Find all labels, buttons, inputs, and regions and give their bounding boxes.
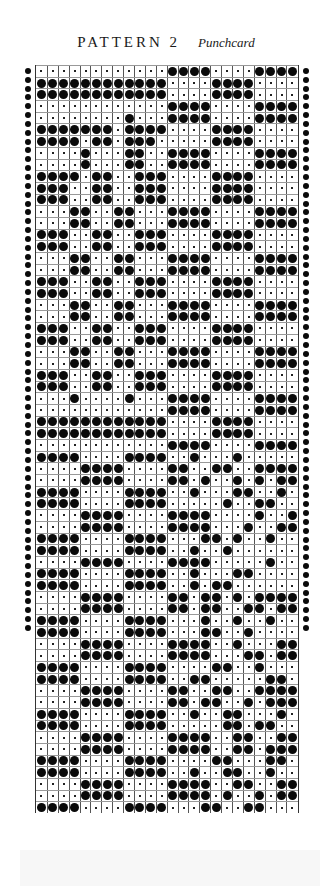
unpunched-cell <box>178 662 189 673</box>
punched-hole <box>36 195 47 206</box>
punched-hole <box>286 347 297 358</box>
unpunched-cell <box>276 615 287 626</box>
unpunched-cell <box>232 510 243 521</box>
unpunched-cell <box>188 721 199 732</box>
punched-hole <box>80 265 91 276</box>
unpunched-cell <box>80 288 91 299</box>
punchcard-row <box>36 369 298 381</box>
punched-hole <box>265 721 276 732</box>
unpunched-cell <box>112 136 123 147</box>
unpunched-cell <box>101 569 112 580</box>
unpunched-cell <box>243 265 254 276</box>
punched-hole <box>199 206 210 217</box>
sprocket-hole-icon <box>25 563 31 569</box>
unpunched-cell <box>69 113 80 124</box>
sprocket-hole-icon <box>303 156 309 162</box>
unpunched-cell <box>134 639 145 650</box>
punched-hole <box>254 791 265 802</box>
unpunched-cell <box>36 475 47 486</box>
punched-hole <box>80 347 91 358</box>
unpunched-cell <box>254 709 265 720</box>
unpunched-cell <box>276 428 287 439</box>
unpunched-cell <box>254 639 265 650</box>
punchcard-row <box>36 568 298 580</box>
unpunched-cell <box>265 382 276 393</box>
unpunched-cell <box>58 265 69 276</box>
punched-hole <box>276 265 287 276</box>
unpunched-cell <box>112 767 123 778</box>
punched-hole <box>101 183 112 194</box>
punched-hole <box>90 475 101 486</box>
unpunched-cell <box>199 452 210 463</box>
unpunched-cell <box>232 148 243 159</box>
unpunched-cell <box>156 265 167 276</box>
punched-hole <box>232 195 243 206</box>
punched-hole <box>145 288 156 299</box>
punched-hole <box>101 417 112 428</box>
punched-hole <box>90 124 101 135</box>
punched-hole <box>101 89 112 100</box>
punched-hole <box>156 534 167 545</box>
punched-hole <box>101 276 112 287</box>
sprocket-hole-icon <box>303 236 309 242</box>
punched-hole <box>134 323 145 334</box>
unpunched-cell <box>145 440 156 451</box>
unpunched-cell <box>80 674 91 685</box>
punchcard-row <box>36 556 298 568</box>
unpunched-cell <box>90 674 101 685</box>
punched-hole <box>134 183 145 194</box>
unpunched-cell <box>188 335 199 346</box>
unpunched-cell <box>276 323 287 334</box>
sprocket-hole-icon <box>303 342 309 348</box>
unpunched-cell <box>156 732 167 743</box>
punched-hole <box>145 452 156 463</box>
punched-hole <box>232 428 243 439</box>
punched-hole <box>101 195 112 206</box>
unpunched-cell <box>156 779 167 790</box>
unpunched-cell <box>254 241 265 252</box>
unpunched-cell <box>178 452 189 463</box>
unpunched-cell <box>188 323 199 334</box>
punched-hole <box>123 113 134 124</box>
sprocket-hole-icon <box>303 262 309 268</box>
punched-hole <box>123 721 134 732</box>
sprocket-hole-icon <box>303 77 309 83</box>
unpunched-cell <box>199 230 210 241</box>
punched-hole <box>286 218 297 229</box>
unpunched-cell <box>276 230 287 241</box>
unpunched-cell <box>36 791 47 802</box>
punchcard-row <box>36 427 298 439</box>
punched-hole <box>69 417 80 428</box>
punched-hole <box>90 685 101 696</box>
unpunched-cell <box>286 195 297 206</box>
punched-hole <box>167 732 178 743</box>
unpunched-cell <box>232 218 243 229</box>
punched-hole <box>123 358 134 369</box>
unpunched-cell <box>276 721 287 732</box>
punchcard-row <box>36 217 298 229</box>
punched-hole <box>276 732 287 743</box>
punched-hole <box>145 627 156 638</box>
unpunched-cell <box>254 756 265 767</box>
punched-hole <box>178 405 189 416</box>
unpunched-cell <box>112 323 123 334</box>
unpunched-cell <box>265 545 276 556</box>
unpunched-cell <box>254 335 265 346</box>
unpunched-cell <box>243 510 254 521</box>
punched-hole <box>167 265 178 276</box>
sprocket-hole-icon <box>25 315 31 321</box>
punched-hole <box>134 615 145 626</box>
unpunched-cell <box>232 160 243 171</box>
unpunched-cell <box>221 534 232 545</box>
punched-hole <box>265 498 276 509</box>
unpunched-cell <box>134 358 145 369</box>
unpunched-cell <box>199 276 210 287</box>
punched-hole <box>178 265 189 276</box>
punched-hole <box>134 674 145 685</box>
punchcard-row <box>36 486 298 498</box>
punched-hole <box>167 393 178 404</box>
unpunched-cell <box>156 791 167 802</box>
punched-hole <box>210 335 221 346</box>
unpunched-cell <box>58 639 69 650</box>
punched-hole <box>286 779 297 790</box>
